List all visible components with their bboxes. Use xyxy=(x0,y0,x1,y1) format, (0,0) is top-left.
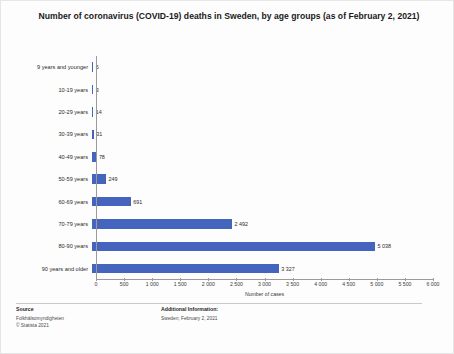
bar-row: 70-79 years 2 492 xyxy=(14,213,438,235)
bar-container: 249 xyxy=(92,168,438,190)
category-label: 60-69 years xyxy=(14,199,92,205)
source-heading: Source xyxy=(16,306,146,312)
additional-info-block: Additional Information: Sweden; February… xyxy=(161,306,341,322)
bar-row: 90 years and older 3 327 xyxy=(14,258,438,280)
source-line: Folkhälsomyndigheten xyxy=(16,315,146,322)
bar-container: 6 xyxy=(92,56,438,78)
bar-container: 78 xyxy=(92,146,438,168)
bar-value-label: 14 xyxy=(96,109,102,115)
x-tick-label: 5 500 xyxy=(398,281,411,287)
chart-title: Number of coronavirus (COVID-19) deaths … xyxy=(38,10,420,22)
bar-row: 80-90 years 5 038 xyxy=(14,235,438,257)
category-label: 40-49 years xyxy=(14,154,92,160)
bar[interactable] xyxy=(92,264,279,274)
bar-container: 3 xyxy=(92,78,438,100)
bar-row: 9 years and younger 6 xyxy=(14,56,438,78)
x-tick-label: 6 000 xyxy=(427,281,440,287)
category-label: 50-59 years xyxy=(14,176,92,182)
bar-value-label: 5 038 xyxy=(377,243,391,249)
bar-value-label: 691 xyxy=(133,199,142,205)
bar[interactable] xyxy=(92,107,93,117)
footer-divider xyxy=(16,303,422,304)
bar-value-label: 78 xyxy=(99,154,105,160)
bar[interactable] xyxy=(92,152,96,162)
bar-value-label: 3 xyxy=(96,87,99,93)
source-block: Source Folkhälsomyndigheten © Statista 2… xyxy=(16,306,146,329)
x-tick-label: 500 xyxy=(120,281,129,287)
category-label: 70-79 years xyxy=(14,221,92,227)
bar-value-label: 3 327 xyxy=(281,266,295,272)
bar-row: 20-29 years 14 xyxy=(14,101,438,123)
bar-row: 60-69 years 691 xyxy=(14,190,438,212)
bar-container: 3 327 xyxy=(92,258,438,280)
chart-plot-area: 9 years and younger 6 10-19 years 3 20-2… xyxy=(14,52,438,292)
x-tick-label: 0 xyxy=(95,281,98,287)
bar[interactable] xyxy=(92,62,93,72)
category-label: 10-19 years xyxy=(14,87,92,93)
bar-value-label: 249 xyxy=(108,176,117,182)
bar-value-label: 6 xyxy=(96,64,99,70)
category-label: 90 years and older xyxy=(14,266,92,272)
category-label: 30-39 years xyxy=(14,131,92,137)
bar-container: 2 492 xyxy=(92,213,438,235)
x-tick-label: 2 000 xyxy=(202,281,215,287)
bar[interactable] xyxy=(92,197,131,207)
bar-container: 14 xyxy=(92,101,438,123)
bar-container: 691 xyxy=(92,190,438,212)
bar-row: 30-39 years 31 xyxy=(14,123,438,145)
x-axis-title: Number of cases xyxy=(96,291,433,297)
category-label: 20-29 years xyxy=(14,109,92,115)
additional-info-line: Sweden; February 2, 2021 xyxy=(161,315,341,322)
source-line: © Statista 2021 xyxy=(16,322,146,329)
chart-page: Number of coronavirus (COVID-19) deaths … xyxy=(0,0,454,354)
x-tick-label: 5 000 xyxy=(370,281,383,287)
bar-row: 40-49 years 78 xyxy=(14,146,438,168)
bar-rows: 9 years and younger 6 10-19 years 3 20-2… xyxy=(14,56,438,280)
category-label: 80-90 years xyxy=(14,243,92,249)
x-tick-label: 1 000 xyxy=(146,281,159,287)
bar-container: 5 038 xyxy=(92,235,438,257)
bar-value-label: 31 xyxy=(96,131,102,137)
bar[interactable] xyxy=(92,174,106,184)
bar[interactable] xyxy=(92,85,93,95)
x-tick-label: 2 500 xyxy=(230,281,243,287)
x-tick-label: 4 000 xyxy=(314,281,327,287)
x-tick-label: 3 000 xyxy=(258,281,271,287)
bar-value-label: 2 492 xyxy=(234,221,248,227)
bar-container: 31 xyxy=(92,123,438,145)
additional-info-heading: Additional Information: xyxy=(161,306,341,312)
category-label: 9 years and younger xyxy=(14,64,92,70)
bar-row: 50-59 years 249 xyxy=(14,168,438,190)
bar[interactable] xyxy=(92,219,232,229)
bar[interactable] xyxy=(92,242,375,252)
bar[interactable] xyxy=(92,130,94,140)
bar-row: 10-19 years 3 xyxy=(14,78,438,100)
x-tick-label: 4 500 xyxy=(342,281,355,287)
x-tick-label: 3 500 xyxy=(286,281,299,287)
x-axis-ticks: 05001 0001 5002 0002 5003 0003 5004 0004… xyxy=(96,281,433,291)
x-tick-label: 1 500 xyxy=(174,281,187,287)
